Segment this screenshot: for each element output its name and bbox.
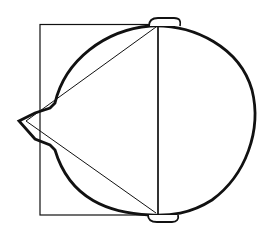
head-construction-diagram bbox=[0, 0, 274, 237]
bounding-rectangle bbox=[40, 25, 158, 216]
top-cap bbox=[149, 18, 180, 26]
bottom-cap bbox=[148, 215, 178, 222]
head-outline bbox=[19, 26, 255, 215]
triangle-upper-edge bbox=[26, 27, 156, 121]
